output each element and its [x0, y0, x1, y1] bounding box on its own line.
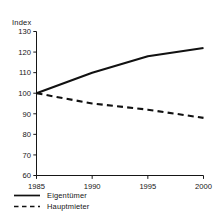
- chart-plot-area: 13012011010090807060 1985199019952000: [0, 0, 213, 219]
- y-tick-label: 120: [18, 48, 31, 57]
- y-axis: 13012011010090807060: [18, 27, 36, 180]
- data-series-group: [37, 48, 204, 118]
- x-axis: 1985199019952000: [28, 176, 212, 192]
- chart-container: Index 13012011010090807060 1985199019952…: [0, 0, 213, 219]
- legend-label-hauptmieter: Hauptmieter: [47, 202, 90, 211]
- y-tick-label: 100: [18, 89, 31, 98]
- y-tick-label: 80: [23, 130, 31, 139]
- legend-label-eigentuemer: Eigentümer: [47, 191, 87, 200]
- legend-item-hauptmieter: Hauptmieter: [14, 201, 204, 212]
- y-tick-label: 60: [23, 171, 31, 180]
- series-line-2: [37, 93, 204, 118]
- y-tick-label: 130: [18, 27, 31, 36]
- legend-solid-line-icon: [14, 191, 40, 200]
- series-line-1: [37, 48, 204, 93]
- y-tick-label: 90: [23, 110, 31, 119]
- legend-dashed-line-icon: [14, 202, 40, 211]
- chart-legend: Eigentümer Hauptmieter: [14, 190, 204, 212]
- legend-item-eigentuemer: Eigentümer: [14, 190, 204, 201]
- y-tick-label: 70: [23, 151, 31, 160]
- y-tick-label: 110: [19, 68, 31, 77]
